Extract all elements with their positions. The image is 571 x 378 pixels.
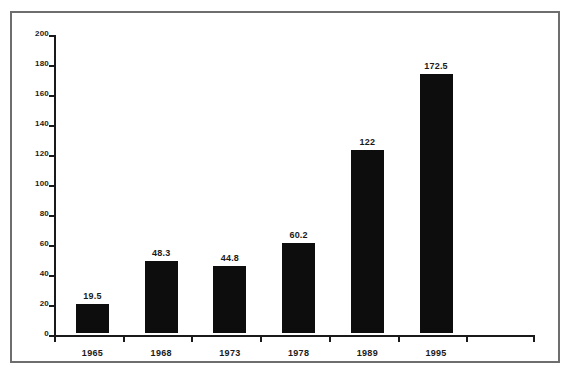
- bar-value-label: 44.8: [221, 253, 239, 263]
- y-tick-label: 140: [35, 119, 49, 128]
- y-tick-mark: [49, 275, 56, 277]
- x-axis-label: 1965: [82, 348, 103, 358]
- x-axis-label: 1973: [219, 348, 240, 358]
- y-tick-mark: [49, 305, 56, 307]
- x-tick-mark: [329, 337, 331, 342]
- y-tick-mark: [49, 65, 56, 67]
- x-tick-mark: [191, 337, 193, 342]
- bar-item: 122: [351, 33, 384, 333]
- bar-value-label: 60.2: [289, 230, 307, 240]
- chart-frame: 020406080100120140160180200 19.548.344.8…: [10, 11, 560, 363]
- bar-value-label: 48.3: [152, 248, 170, 258]
- y-tick-label: 0: [44, 329, 49, 338]
- y-tick-label: 200: [35, 29, 49, 38]
- y-tick-mark: [49, 125, 56, 127]
- y-tick-label: 20: [40, 299, 49, 308]
- x-axis-label: 1978: [288, 348, 309, 358]
- plot-area: 020406080100120140160180200 19.548.344.8…: [54, 35, 535, 335]
- y-tick-label: 60: [40, 239, 49, 248]
- bar-value-label: 19.5: [83, 291, 101, 301]
- x-tick-mark: [260, 337, 262, 342]
- x-axis-label: 1968: [151, 348, 172, 358]
- y-tick-mark: [49, 155, 56, 157]
- bar: [282, 243, 315, 333]
- x-tick-mark-end: [533, 337, 535, 342]
- screenshot-root: 020406080100120140160180200 19.548.344.8…: [0, 0, 571, 378]
- bar: [351, 150, 384, 333]
- bar-value-label: 122: [360, 137, 376, 147]
- bar-item: 19.5: [76, 33, 109, 333]
- bar: [213, 266, 246, 333]
- y-tick-label: 100: [35, 179, 49, 188]
- bar-item: 44.8: [213, 33, 246, 333]
- bar-item: 60.2: [282, 33, 315, 333]
- y-tick-label: 180: [35, 59, 49, 68]
- y-tick-label: 120: [35, 149, 49, 158]
- y-tick-mark: [49, 215, 56, 217]
- x-tick-mark: [123, 337, 125, 342]
- y-tick-mark: [49, 245, 56, 247]
- y-tick-mark: [49, 95, 56, 97]
- bar-item: 48.3: [145, 33, 178, 333]
- y-tick-mark: [49, 185, 56, 187]
- bar: [420, 74, 453, 333]
- y-tick-label: 80: [40, 209, 49, 218]
- y-tick-mark: [49, 35, 56, 37]
- bar-item: 172.5: [420, 33, 453, 333]
- x-tick-mark: [466, 337, 468, 342]
- bar: [145, 261, 178, 333]
- bar-value-label: 172.5: [424, 61, 448, 71]
- x-axis-label: 1989: [357, 348, 378, 358]
- y-tick-label: 160: [35, 89, 49, 98]
- scan-caption: [12, 370, 432, 378]
- x-tick-mark: [54, 337, 56, 342]
- x-axis-label: 1995: [425, 348, 446, 358]
- y-tick-label: 40: [40, 269, 49, 278]
- x-tick-mark: [398, 337, 400, 342]
- bar: [76, 304, 109, 333]
- x-axis-line: [54, 335, 535, 337]
